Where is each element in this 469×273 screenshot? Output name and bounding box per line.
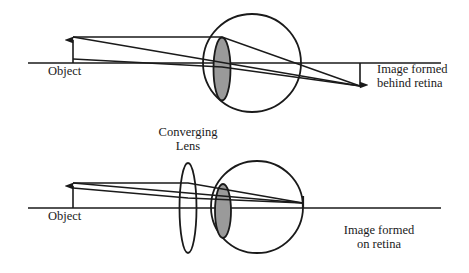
label-image-behind-retina-line2: behind retina (377, 77, 443, 91)
label-object-bottom: Object (48, 210, 81, 224)
label-image-on-retina-line2: on retina (318, 238, 440, 252)
crystalline-lens-bottom (215, 184, 231, 238)
ray-chief-bottom (73, 183, 303, 203)
label-object-top: Object (48, 65, 81, 79)
optics-diagram-figure: Object Image formed behind retina Conver… (0, 0, 469, 273)
label-converging-lens-line1: Converging (141, 126, 235, 140)
label-image-behind-retina-line1: Image formed (377, 63, 447, 77)
label-image-on-retina-line1: Image formed (318, 224, 440, 238)
ray-lower-bottom (73, 188, 303, 203)
label-converging-lens-line2: Lens (141, 140, 235, 154)
crystalline-lens-top (214, 38, 231, 101)
